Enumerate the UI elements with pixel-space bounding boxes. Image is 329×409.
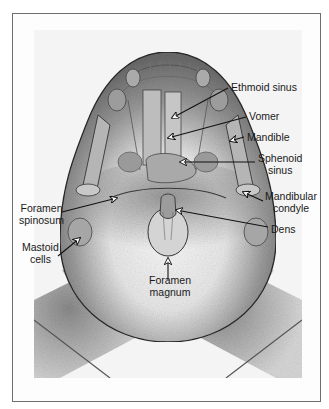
label-sphenoid-sinus: Sphenoid sinus: [258, 152, 302, 176]
label-foramen-magnum: Foramen magnum: [149, 274, 191, 298]
label-dens: Dens: [271, 223, 296, 235]
label-line: Foramen: [19, 202, 64, 214]
label-line: Dens: [271, 223, 296, 235]
label-line: spinosum: [19, 214, 64, 226]
label-line: Mastoid: [22, 241, 59, 253]
label-line: Sphenoid: [258, 152, 302, 164]
label-mandible: Mandible: [247, 131, 290, 143]
label-line: Mandible: [247, 131, 290, 143]
label-line: magnum: [149, 286, 191, 298]
label-line: Foramen: [149, 274, 191, 286]
label-foramen-spinosum: Foramen spinosum: [19, 202, 64, 226]
label-ethmoid-sinus: Ethmoid sinus: [231, 81, 297, 93]
label-line: condyle: [265, 202, 317, 214]
label-line: Ethmoid sinus: [231, 81, 297, 93]
label-vomer: Vomer: [249, 110, 279, 122]
label-line: Vomer: [249, 110, 279, 122]
label-line: sinus: [258, 164, 302, 176]
label-mandibular-condyle: Mandibular condyle: [265, 190, 317, 214]
label-line: cells: [22, 253, 59, 265]
label-line: Mandibular: [265, 190, 317, 202]
label-mastoid-cells: Mastoid cells: [22, 241, 59, 265]
